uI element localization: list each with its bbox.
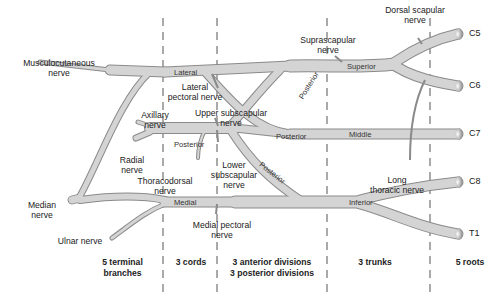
label-musculocutaneous-nerve: Musculocutaneousnerve	[14, 58, 104, 78]
label-thoracodorsal-nerve: Thoracodorsalnerve	[125, 176, 205, 196]
root-label-c5: C5	[469, 28, 481, 38]
trunk-label-superior: Superior	[347, 62, 376, 71]
section-label-roots: 5 roots	[440, 257, 500, 268]
trunk-label-middle: Middle	[349, 130, 371, 139]
section-label-cords: 3 cords	[168, 257, 214, 268]
root-label-c8: C8	[469, 176, 481, 186]
section-label-trunks: 3 trunks	[340, 257, 410, 268]
label-medial-pectoral-nerve: Medial pectoralnerve	[182, 220, 262, 240]
root-label-c7: C7	[469, 128, 481, 138]
label-ulnar-nerve: Ulnar nerve	[50, 236, 110, 246]
label-lateral-pectoral-nerve: Lateralpectoral nerve	[155, 82, 235, 102]
root-label-t1: T1	[469, 228, 480, 238]
label-upper-subscapular-nerve: Upper subscapularnerve	[186, 108, 276, 128]
cord-label-medial: Medial	[174, 198, 196, 207]
trunk-label-inferior: Inferior	[349, 198, 373, 207]
label-long-thoracic-nerve: Longthoracic nerve	[357, 175, 437, 195]
label-lower-subscapular-nerve: Lowersubscapularnerve	[204, 160, 264, 190]
label-axillary-nerve: Axillarynerve	[135, 110, 175, 130]
cord-label-posterior: Posterior	[174, 140, 204, 149]
root-caps	[456, 28, 463, 240]
section-label-terminal-branches: 5 terminalbranches	[85, 257, 160, 279]
root-label-c6: C6	[469, 80, 481, 90]
label-radial-nerve: Radialnerve	[112, 155, 152, 175]
label-median-nerve: Mediannerve	[22, 200, 62, 220]
section-label-divisions: 3 anterior divisions3 posterior division…	[218, 257, 326, 279]
cord-label-lateral: Lateral	[174, 68, 197, 77]
brachial-plexus-diagram: C5 C6 C7 C8 T1 Superior Middle Inferior …	[0, 0, 503, 302]
label-dorsal-scapular-nerve: Dorsal scapularnerve	[375, 5, 455, 25]
label-suprascapular-nerve: Suprascapularnerve	[288, 35, 368, 55]
division-label-posterior-middle: Posterior	[276, 132, 306, 141]
